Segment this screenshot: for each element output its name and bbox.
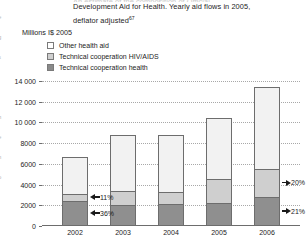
legend-swatch-icon-health — [47, 64, 54, 71]
clipped-text-fragment: h — [0, 114, 1, 120]
y-axis-tick-label: 0 — [32, 223, 36, 230]
legend-label-other: Other health aid — [59, 42, 109, 49]
bar-segment-hiv[interactable] — [206, 179, 232, 203]
bar-segment-other[interactable] — [62, 157, 88, 194]
y-axis-tick-mark — [39, 143, 42, 144]
bar-segment-other[interactable] — [206, 118, 232, 179]
chart-title-line-2-text: deflator adjusted — [73, 16, 129, 25]
annotation-36pct: 36% — [90, 210, 114, 217]
annotation-11pct: 11% — [90, 194, 114, 201]
bar-2006[interactable] — [254, 87, 280, 226]
bar-segment-hiv[interactable] — [110, 191, 136, 206]
y-axis-tick-mark — [39, 81, 42, 82]
clipped-text-fragment: g — [0, 34, 1, 40]
bar-segment-hiv[interactable] — [62, 194, 88, 201]
gridline — [42, 81, 300, 82]
clipped-adjacent-text: egsithenof — [0, 0, 9, 250]
y-axis-tick-label: 10 000 — [15, 119, 36, 126]
legend-item-other-health-aid: Other health aid — [47, 40, 159, 50]
clipped-text-fragment: s — [0, 54, 1, 60]
bar-2005[interactable] — [206, 118, 232, 226]
y-axis-units-label: Millions I$ 2005 — [22, 28, 72, 37]
clipped-text-fragment: e — [0, 134, 1, 140]
footnote-marker: 67 — [129, 15, 135, 21]
y-axis-tick-mark — [39, 205, 42, 206]
x-axis-tick-label: 2005 — [199, 229, 239, 236]
bar-segment-health[interactable] — [62, 201, 88, 226]
y-axis-tick-label: 8000 — [20, 140, 36, 147]
bar-2002[interactable] — [62, 157, 88, 226]
clipped-text-fragment: o — [0, 174, 1, 180]
y-axis-tick-label: 6000 — [20, 160, 36, 167]
bar-segment-hiv[interactable] — [158, 192, 184, 204]
chart-legend: Other health aid Technical cooperation H… — [47, 40, 159, 73]
annotation-label: 21% — [291, 208, 305, 215]
legend-swatch-icon-other — [47, 42, 54, 49]
clipped-text-fragment: e — [0, 14, 1, 20]
x-axis-tick-label: 2006 — [247, 229, 287, 236]
chart-title: An estimate of the composition of Offici… — [73, 0, 305, 27]
chart-title-line-2: deflator adjusted67 — [73, 13, 305, 27]
x-axis-tick-label: 2004 — [151, 229, 191, 236]
legend-item-technical-cooperation-hivaids: Technical cooperation HIV/AIDS — [47, 51, 159, 61]
y-axis-tick-label: 12 000 — [15, 98, 36, 105]
bar-segment-hiv[interactable] — [254, 169, 280, 197]
legend-item-technical-cooperation-health: Technical cooperation health — [47, 62, 159, 72]
y-axis-tick-mark — [39, 122, 42, 123]
y-axis-tick-mark — [39, 102, 42, 103]
chart-title-line-1: Development Aid for Health. Yearly aid f… — [73, 2, 305, 13]
annotation-21pct: 21% — [282, 208, 305, 215]
legend-label-health: Technical cooperation health — [59, 64, 148, 71]
x-axis-tick-label: 2002 — [55, 229, 95, 236]
annotation-label: 20% — [291, 179, 305, 186]
annotation-label: 36% — [100, 210, 114, 217]
x-axis-tick-label: 2003 — [103, 229, 143, 236]
bar-segment-health[interactable] — [254, 197, 280, 226]
bar-segment-other[interactable] — [110, 135, 136, 191]
y-axis-tick-label: 14 000 — [15, 78, 36, 85]
annotation-20pct: 20% — [282, 179, 305, 186]
bar-segment-other[interactable] — [254, 87, 280, 169]
bar-2004[interactable] — [158, 135, 184, 226]
y-axis-tick-label: 4000 — [20, 181, 36, 188]
legend-swatch-icon-hiv — [47, 53, 54, 60]
bar-segment-health[interactable] — [158, 204, 184, 226]
y-axis-tick-mark — [39, 185, 42, 186]
clipped-text-fragment: n — [0, 154, 1, 160]
y-axis-tick-mark — [39, 226, 42, 227]
legend-label-hiv: Technical cooperation HIV/AIDS — [59, 53, 159, 60]
bar-segment-other[interactable] — [158, 135, 184, 192]
bar-segment-health[interactable] — [206, 203, 232, 226]
plot-area: 0200040006000800010 00012 00014 00020022… — [42, 81, 300, 226]
annotation-label: 11% — [100, 194, 114, 201]
y-axis-tick-mark — [39, 164, 42, 165]
y-axis-tick-label: 2000 — [20, 202, 36, 209]
